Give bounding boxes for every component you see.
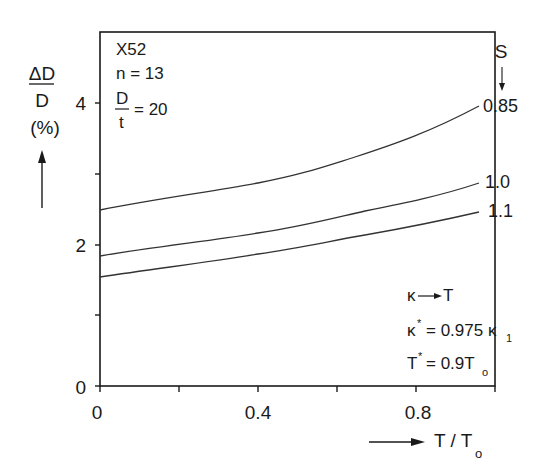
model-annotations: κ T κ * = 0.975 κ 1 T * = 0.9T o bbox=[407, 286, 512, 378]
tstar-equation: = 0.9T bbox=[426, 354, 475, 373]
tstar-subscript: o bbox=[482, 366, 488, 378]
curve-s-1.1 bbox=[100, 212, 479, 277]
y-axis-label: ΔD D (%) bbox=[29, 63, 60, 208]
y-label-denominator: D bbox=[35, 90, 49, 111]
curve-s-0.85 bbox=[100, 106, 479, 210]
x-tick-label-0.8: 0.8 bbox=[405, 402, 431, 423]
kstar-kappa: κ bbox=[407, 321, 416, 340]
series-label-1.1: 1.1 bbox=[488, 201, 513, 221]
kappa-target: T bbox=[443, 286, 453, 305]
series-label-1.0: 1.0 bbox=[485, 172, 510, 192]
y-label-unit: (%) bbox=[30, 117, 60, 138]
y-label-numerator: ΔD bbox=[29, 63, 55, 84]
y-tick-label-0: 0 bbox=[75, 377, 86, 398]
series-label-0.85: 0.85 bbox=[483, 96, 518, 116]
x-axis-label: T / T o bbox=[369, 430, 482, 461]
n-param: n = 13 bbox=[116, 64, 164, 83]
dt-numerator: D bbox=[116, 89, 128, 108]
series-curves bbox=[100, 106, 479, 277]
chart: 0 2 4 0 0.4 0.8 ΔD D (%) T / T o S 0.85 … bbox=[0, 0, 548, 474]
svg-text:*: * bbox=[418, 350, 423, 362]
kstar-equation: = 0.975 κ bbox=[426, 321, 497, 340]
material-label: X52 bbox=[116, 40, 146, 59]
kstar-subscript: 1 bbox=[506, 332, 512, 344]
svg-text:*: * bbox=[417, 317, 422, 329]
kappa-symbol: κ bbox=[407, 286, 416, 305]
curve-s-1.0 bbox=[100, 183, 479, 256]
x-label-main: T / T bbox=[434, 430, 473, 451]
x-tick-label-0: 0 bbox=[92, 402, 103, 423]
x-tick-label-0.4: 0.4 bbox=[245, 402, 272, 423]
x-label-subscript: o bbox=[475, 446, 482, 461]
x-axis-ticks bbox=[100, 386, 495, 392]
y-tick-label-2: 2 bbox=[75, 235, 86, 256]
parameter-annotations: X52 n = 13 D t = 20 bbox=[115, 40, 168, 132]
y-tick-label-4: 4 bbox=[75, 93, 86, 114]
tstar-t: T bbox=[407, 354, 417, 373]
legend-title: S bbox=[495, 41, 508, 62]
dt-denominator: t bbox=[119, 113, 124, 132]
dt-value: = 20 bbox=[134, 100, 168, 119]
